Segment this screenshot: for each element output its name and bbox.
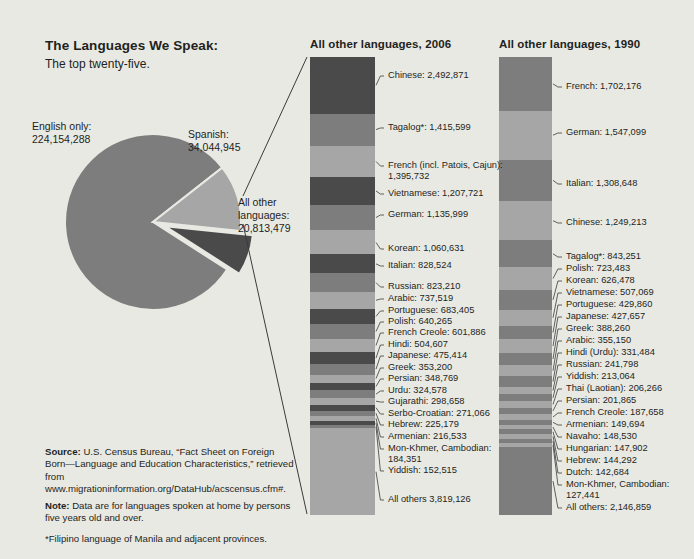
callout-label-russian: Russian: 241,798 xyxy=(566,359,638,370)
callout-label-hindi-urdu-: Hindi (Urdu): 331,484 xyxy=(566,347,655,358)
infographic-canvas: The Languages We Speak: The top twenty-f… xyxy=(0,0,694,559)
footer-note: Note: Data are for languages spoken at h… xyxy=(45,500,297,525)
callout-label-mon-khmer-cambodian: Mon-Khmer, Cambodian: 127,441 xyxy=(566,479,669,501)
callout-label-hebrew: Hebrew: 144,292 xyxy=(566,455,637,466)
callout-label-tagalog-: Tagalog*: 843,251 xyxy=(566,251,641,262)
callout-label-polish: Polish: 723,483 xyxy=(566,263,630,274)
callout-label-dutch: Dutch: 142,684 xyxy=(566,467,629,478)
callout-label-chinese: Chinese: 1,249,213 xyxy=(566,217,647,228)
callout-label-thai-laotian-: Thai (Laotian): 206,266 xyxy=(566,383,662,394)
footer-footnote: *Filipino language of Manila and adjacen… xyxy=(45,533,297,545)
callout-label-greek: Greek: 388,260 xyxy=(566,323,630,334)
callout-label-portuguese: Portuguese: 429,860 xyxy=(566,299,652,310)
callout-label-hungarian: Hungarian: 147,902 xyxy=(566,443,648,454)
footer-note-label: Note: xyxy=(45,500,70,511)
callout-label-all-others: All others: 2,146,859 xyxy=(566,502,651,513)
callout-label-armenian: Armenian: 149,694 xyxy=(566,419,645,430)
footer-source-label: Source: xyxy=(45,446,81,457)
callout-label-vietnamese: Vietnamese: 507,069 xyxy=(566,287,654,298)
callout-label-korean: Korean: 626,478 xyxy=(566,275,635,286)
footer-source: Source: U.S. Census Bureau, “Fact Sheet … xyxy=(45,446,297,496)
callout-label-persian: Persian: 201,865 xyxy=(566,395,636,406)
callout-label-yiddish: Yiddish: 213,064 xyxy=(566,371,635,382)
callout-label-french-creole: French Creole: 187,658 xyxy=(566,407,664,418)
callout-label-french: French: 1,702,176 xyxy=(566,81,641,92)
callout-label-navaho: Navaho: 148,530 xyxy=(566,431,637,442)
callout-label-japanese: Japanese: 427,657 xyxy=(566,311,645,322)
callout-label-arabic: Arabic: 355,150 xyxy=(566,335,631,346)
callout-label-german: German: 1,547,099 xyxy=(566,127,646,138)
footer-source-text: U.S. Census Bureau, “Fact Sheet on Forei… xyxy=(45,446,294,494)
footer-note-text: Data are for languages spoken at home by… xyxy=(45,500,290,523)
callout-label-italian: Italian: 1,308,648 xyxy=(566,178,637,189)
